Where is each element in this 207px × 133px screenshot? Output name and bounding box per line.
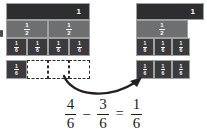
left-sixth-cell-3: 1 6 [48, 38, 69, 56]
right-whole-bar: 1 [136, 3, 204, 20]
result-cell-2: 1 6 [154, 60, 172, 79]
left-half-cell-2: 1 2 [48, 20, 90, 38]
equation: 4 6 – 3 6 = 1 6 [0, 96, 207, 133]
remainder-empty-cell-1 [27, 60, 48, 79]
fraction-one-sixth: 1 6 [56, 41, 61, 53]
equals-sign: = [116, 106, 124, 123]
fraction-one-sixth: 1 6 [143, 64, 148, 76]
left-sixth-cell-1: 1 6 [6, 38, 27, 56]
fraction-one-sixth: 1 6 [179, 64, 184, 76]
right-sixth-cell-2: 1 6 [154, 38, 172, 56]
equation-minuend: 4 6 [65, 97, 77, 132]
left-whole-label: 1 [77, 8, 81, 16]
right-sixth-cell-3: 1 6 [172, 38, 190, 56]
left-sixth-cell-2: 1 6 [27, 38, 48, 56]
remainder-empty-cell-3 [69, 60, 90, 79]
fraction-one-sixth: 1 6 [161, 41, 166, 53]
minus-sign: – [83, 106, 90, 123]
fraction-model-figure: 1 1 2 1 2 1 6 1 6 [0, 0, 207, 133]
remainder-empty-cell-2 [48, 60, 69, 79]
right-whole-label: 1 [191, 8, 195, 16]
left-half-cell-1: 1 2 [6, 20, 48, 38]
fraction-one-sixth: 1 6 [35, 41, 40, 53]
right-half-cell-1: 1 2 [136, 20, 188, 38]
left-sixth-cell-4: 1 6 [69, 38, 90, 56]
fraction-one-sixth: 1 6 [161, 64, 166, 76]
fraction-one-half: 1 2 [24, 22, 29, 36]
scan-artifact [0, 30, 3, 37]
right-sixth-cell-1: 1 6 [136, 38, 154, 56]
fraction-one-sixth: 1 6 [14, 41, 19, 53]
fraction-one-sixth: 1 6 [14, 64, 19, 76]
fraction-one-half: 1 2 [159, 22, 164, 36]
fraction-one-sixth: 1 6 [179, 41, 184, 53]
left-whole-bar: 1 [6, 3, 90, 20]
remainder-filled-cell: 1 6 [6, 60, 27, 79]
result-cell-1: 1 6 [136, 60, 154, 79]
fraction-one-sixth: 1 6 [143, 41, 148, 53]
fraction-one-sixth: 1 6 [77, 41, 82, 53]
equation-subtrahend: 3 6 [97, 97, 109, 132]
result-cell-3: 1 6 [172, 60, 190, 79]
fraction-one-half: 1 2 [66, 22, 71, 36]
equation-difference: 1 6 [131, 97, 143, 132]
